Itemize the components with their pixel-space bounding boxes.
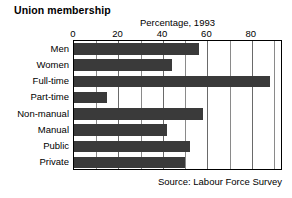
- bar-private: [74, 157, 185, 169]
- bar-series: [74, 41, 281, 169]
- x-axis-tick-labels: 020406080: [0, 28, 292, 40]
- bar-row: [74, 41, 281, 57]
- bar-men: [74, 43, 199, 55]
- x-tick-label-60: 60: [194, 28, 218, 39]
- bar-women: [74, 59, 172, 71]
- bar-row: [74, 57, 281, 73]
- y-label-non-manual: Non-manual: [0, 108, 69, 119]
- y-label-women: Women: [0, 59, 69, 70]
- x-axis-title: Percentage, 1993: [73, 17, 282, 28]
- x-tick-label-20: 20: [105, 28, 129, 39]
- y-label-private: Private: [0, 156, 69, 167]
- y-label-men: Men: [0, 43, 69, 54]
- bar-row: [74, 122, 281, 138]
- source-note: Source: Labour Force Survey: [158, 176, 282, 187]
- plot-area: [73, 40, 282, 170]
- y-label-manual: Manual: [0, 124, 69, 135]
- x-tick-label-0: 0: [61, 28, 85, 39]
- bar-manual: [74, 124, 167, 136]
- bar-row: [74, 90, 281, 106]
- bar-full-time: [74, 76, 270, 88]
- bar-part-time: [74, 92, 107, 104]
- chart-title: Union membership: [14, 4, 111, 16]
- y-axis-category-labels: MenWomenFull-timePart-timeNon-manualManu…: [0, 40, 69, 170]
- bar-row: [74, 155, 281, 171]
- x-tick-label-80: 80: [239, 28, 263, 39]
- y-label-public: Public: [0, 140, 69, 151]
- bar-row: [74, 139, 281, 155]
- y-label-full-time: Full-time: [0, 75, 69, 86]
- union-membership-bar-chart: Union membership Percentage, 1993 020406…: [0, 0, 292, 198]
- bar-public: [74, 141, 190, 153]
- bar-row: [74, 106, 281, 122]
- bar-row: [74, 74, 281, 90]
- bar-non-manual: [74, 108, 203, 120]
- y-label-part-time: Part-time: [0, 91, 69, 102]
- x-tick-label-40: 40: [150, 28, 174, 39]
